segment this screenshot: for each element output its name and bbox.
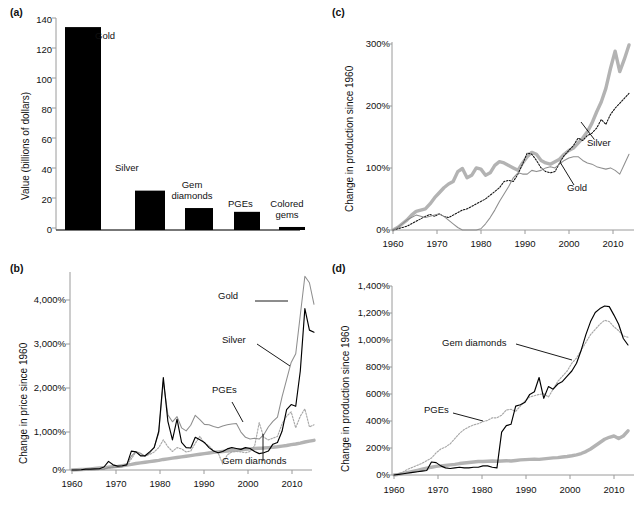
panel-d-plot bbox=[322, 256, 644, 513]
panel-c-annotation-gold: Gold bbox=[567, 183, 587, 194]
panel-d-annotation-pges: PGEs bbox=[424, 405, 449, 416]
panel-a-bar bbox=[135, 191, 165, 230]
series-line bbox=[394, 431, 628, 475]
series-line bbox=[394, 320, 628, 475]
panel-d-leader-pges bbox=[453, 413, 483, 421]
panel-a-bar bbox=[65, 27, 101, 230]
panel-a-bar-label-gold: Gold bbox=[95, 31, 115, 42]
series-line bbox=[393, 93, 629, 230]
panel-a-bar bbox=[185, 208, 213, 230]
panel-c: (c) Change in production since 1960 300%… bbox=[322, 0, 644, 256]
panel-b-annotation-silver: Silver bbox=[222, 335, 246, 346]
panel-b-series-group bbox=[72, 276, 314, 470]
panel-d: (d) Change in production since 1960 1,40… bbox=[322, 256, 644, 513]
figure-root: (a) Value (billions of dollars) 140 120 … bbox=[0, 0, 644, 513]
panel-b-plot bbox=[0, 256, 322, 513]
panel-d-series-group bbox=[394, 306, 628, 475]
panel-a-bar-label-colored-gems: Coloredgems bbox=[263, 199, 311, 220]
panel-a: (a) Value (billions of dollars) 140 120 … bbox=[0, 0, 322, 256]
panel-c-annotation-silver: Silver bbox=[587, 138, 611, 149]
panel-d-leader-gem-diamonds bbox=[516, 344, 572, 360]
panel-b-annotation-gem-diamonds: Gem diamonds bbox=[222, 456, 286, 467]
panel-a-bar bbox=[234, 212, 260, 230]
panel-b: (b) Change in price since 1960 4,000% 3,… bbox=[0, 256, 322, 513]
panel-a-bar bbox=[279, 227, 305, 230]
panel-b-leader-silver bbox=[257, 344, 290, 366]
panel-b-leader-pges bbox=[232, 402, 243, 422]
panel-b-annotation-pges: PGEs bbox=[212, 385, 237, 396]
panel-a-bar-label-silver: Silver bbox=[115, 163, 139, 174]
panel-b-annotation-gold: Gold bbox=[218, 291, 238, 302]
panel-c-plot bbox=[322, 0, 644, 256]
panel-d-annotation-gem-diamonds: Gem diamonds bbox=[442, 338, 506, 349]
panel-a-bar-label-gem-diamonds: Gemdiamonds bbox=[163, 180, 221, 201]
panel-a-bar-label-pges: PGEs bbox=[228, 199, 253, 210]
